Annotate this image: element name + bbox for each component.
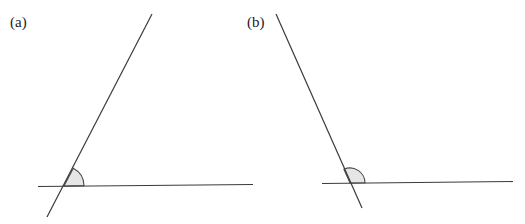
- panel-a: [38, 14, 253, 217]
- transversal-line-b: [276, 14, 362, 208]
- panel-b: [276, 14, 513, 208]
- angle-diagram: [0, 0, 525, 224]
- transversal-line-a: [47, 14, 152, 217]
